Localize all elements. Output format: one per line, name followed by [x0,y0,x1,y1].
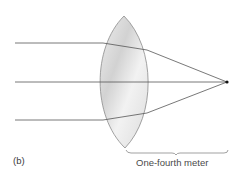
converging-lens-figure: (b) One-fourth meter [0,0,241,178]
panel-label: (b) [13,155,25,166]
focal-point [225,80,228,83]
lens-diagram [0,0,241,178]
distance-brace [126,150,228,155]
focal-length-label: One-fourth meter [136,157,208,168]
